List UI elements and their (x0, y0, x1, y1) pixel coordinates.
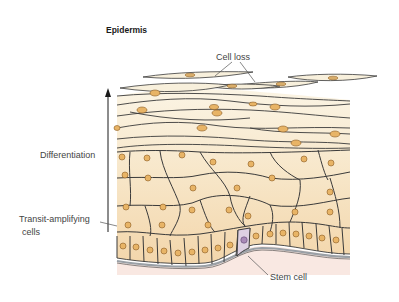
cell-loss-squames (120, 72, 377, 92)
transit-amplifying-label-line2: cells (22, 227, 40, 237)
stem-cell-nucleus (241, 237, 247, 243)
differentiation-label: Differentiation (40, 150, 95, 160)
stem-cell-label: Stem cell (270, 272, 307, 282)
transit-amplifying-label-line1: Transit-amplifying (19, 214, 90, 224)
cell-loss-label: Cell loss (216, 52, 250, 62)
differentiation-arrow (105, 88, 111, 232)
